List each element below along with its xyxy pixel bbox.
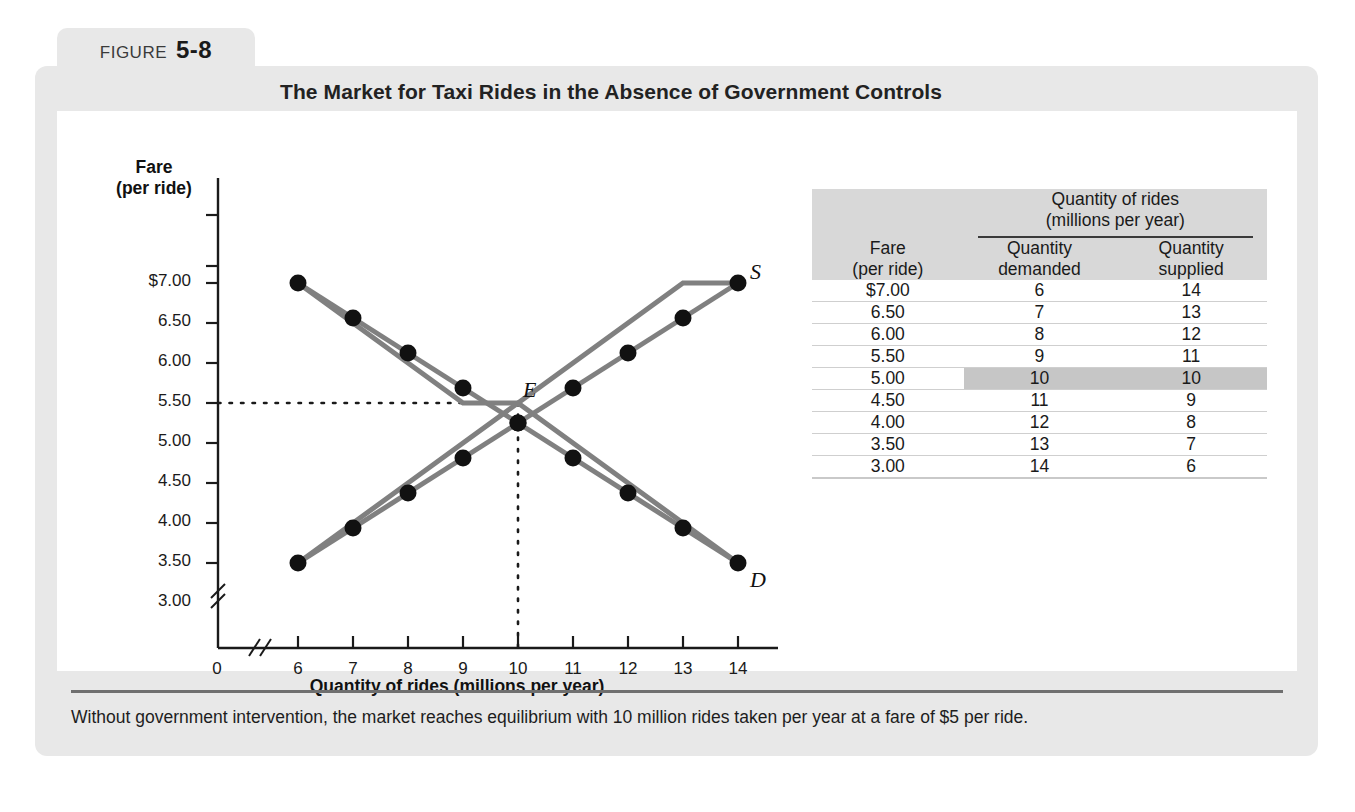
figure-card: The Market for Taxi Rides in the Absence… (35, 66, 1318, 756)
y-tick-label-0: $7.00 (115, 271, 191, 291)
cell-quantity-demanded: 7 (964, 301, 1116, 323)
table-row: 5.001010 (812, 367, 1267, 389)
x-tick-label-5: 11 (553, 659, 593, 679)
x-tick-label-3: 9 (443, 659, 483, 679)
header-qs-line2: supplied (1115, 259, 1267, 280)
cell-fare: 5.00 (812, 367, 964, 389)
cell-quantity-demanded: 14 (964, 455, 1116, 477)
table-head: Fare (per ride) Quantity of rides (milli… (812, 189, 1267, 280)
cell-fare: 4.00 (812, 411, 964, 433)
cell-quantity-demanded: 12 (964, 411, 1116, 433)
header-quantity-line1: Quantity of rides (964, 189, 1267, 210)
cell-quantity-demanded: 9 (964, 345, 1116, 367)
cell-fare: 3.50 (812, 433, 964, 455)
table-row: 5.50911 (812, 345, 1267, 367)
supply-demand-table: Fare (per ride) Quantity of rides (milli… (812, 189, 1267, 479)
x-tick-label-origin: 0 (197, 659, 237, 679)
cell-quantity-supplied: 7 (1115, 433, 1267, 455)
y-tick-label-7: 3.50 (115, 551, 191, 571)
y-tick-label-5: 4.50 (115, 471, 191, 491)
figure-number: 5-8 (176, 36, 212, 64)
header-quantity-supplied: Quantity supplied (1115, 238, 1267, 279)
cell-quantity-supplied: 14 (1115, 280, 1267, 302)
cell-quantity-supplied: 9 (1115, 389, 1267, 411)
x-tick-label-1: 7 (333, 659, 373, 679)
x-axis-title: Quantity of rides (millions per year) (177, 676, 737, 697)
x-tick-label-4: 10 (498, 659, 538, 679)
cell-fare: 3.00 (812, 455, 964, 477)
y-tick-label-4: 5.00 (115, 431, 191, 451)
x-tick-label-7: 13 (663, 659, 703, 679)
supply-demand-chart: Fare (per ride) Quantity of rides (milli… (57, 111, 827, 671)
cell-quantity-supplied: 12 (1115, 323, 1267, 345)
table-row: 3.00146 (812, 455, 1267, 477)
cell-fare: 6.00 (812, 323, 964, 345)
data-table: Fare (per ride) Quantity of rides (milli… (812, 189, 1267, 477)
figure-caption: Without government intervention, the mar… (71, 706, 1286, 729)
y-axis-title: Fare (per ride) (95, 157, 213, 200)
cell-quantity-supplied: 6 (1115, 455, 1267, 477)
header-quantity-group: Quantity of rides (millions per year) (964, 189, 1267, 238)
x-tick-label-2: 8 (388, 659, 428, 679)
caption-divider (71, 690, 1283, 693)
header-qd-line1: Quantity (964, 238, 1116, 259)
table-body: $7.006146.507136.008125.509115.0010104.5… (812, 280, 1267, 477)
table-row: 4.50119 (812, 389, 1267, 411)
cell-quantity-demanded: 10 (964, 367, 1116, 389)
header-quantity-line2: (millions per year) (964, 210, 1267, 231)
table-row: 3.50137 (812, 433, 1267, 455)
cell-quantity-demanded: 6 (964, 280, 1116, 302)
cell-fare: 4.50 (812, 389, 964, 411)
supply-curve-label: S (750, 259, 761, 285)
table-row: 4.00128 (812, 411, 1267, 433)
cell-quantity-demanded: 13 (964, 433, 1116, 455)
cell-quantity-supplied: 8 (1115, 411, 1267, 433)
y-tick-label-3: 5.50 (115, 391, 191, 411)
table-row: 6.00812 (812, 323, 1267, 345)
cell-fare: 5.50 (812, 345, 964, 367)
y-tick-label-8: 3.00 (115, 591, 191, 611)
figure-tab-inner: FIGURE 5-8 (100, 36, 212, 64)
cell-quantity-supplied: 13 (1115, 301, 1267, 323)
table-row: 6.50713 (812, 301, 1267, 323)
equilibrium-label: E (523, 377, 536, 403)
y-tick-label-2: 6.00 (115, 351, 191, 371)
header-qs-line1: Quantity (1115, 238, 1267, 259)
table-bottom-rule (812, 477, 1267, 479)
x-tick-label-0: 6 (278, 659, 318, 679)
y-tick-label-6: 4.00 (115, 511, 191, 531)
cell-quantity-demanded: 11 (964, 389, 1116, 411)
table-header-group-row: Fare (per ride) Quantity of rides (milli… (812, 189, 1267, 238)
y-axis-title-line2: (per ride) (95, 178, 213, 199)
cell-quantity-demanded: 8 (964, 323, 1116, 345)
header-quantity-demanded: Quantity demanded (964, 238, 1116, 279)
cell-fare: 6.50 (812, 301, 964, 323)
header-qd-line2: demanded (964, 259, 1116, 280)
content-panel: Fare (per ride) Quantity of rides (milli… (57, 111, 1297, 671)
figure-tab: FIGURE 5-8 (57, 28, 255, 72)
cell-quantity-supplied: 10 (1115, 367, 1267, 389)
y-tick-label-1: 6.50 (115, 311, 191, 331)
x-tick-label-8: 14 (718, 659, 758, 679)
header-fare-line1: Fare (812, 238, 964, 259)
figure-title: The Market for Taxi Rides in the Absence… (280, 80, 942, 104)
x-tick-label-6: 12 (608, 659, 648, 679)
demand-curve-label: D (750, 567, 766, 593)
table-row: $7.00614 (812, 280, 1267, 302)
figure-label: FIGURE (100, 43, 167, 63)
header-fare-line2: (per ride) (812, 259, 964, 280)
cell-fare: $7.00 (812, 280, 964, 302)
y-axis-title-line1: Fare (95, 157, 213, 178)
cell-quantity-supplied: 11 (1115, 345, 1267, 367)
header-fare: Fare (per ride) (812, 189, 964, 280)
